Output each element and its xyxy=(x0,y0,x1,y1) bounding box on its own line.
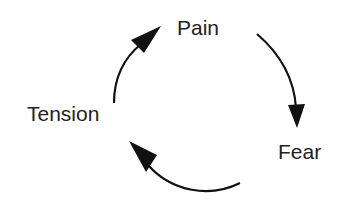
arrow-tension-to-pain xyxy=(114,26,161,103)
arrow-pain-to-fear xyxy=(257,34,305,128)
arrow-fear-to-tension xyxy=(129,141,240,191)
node-tension-label: Tension xyxy=(27,103,99,124)
node-pain-label: Pain xyxy=(177,17,219,38)
node-fear-label: Fear xyxy=(278,141,321,162)
cycle-diagram: Pain Fear Tension xyxy=(0,0,353,212)
